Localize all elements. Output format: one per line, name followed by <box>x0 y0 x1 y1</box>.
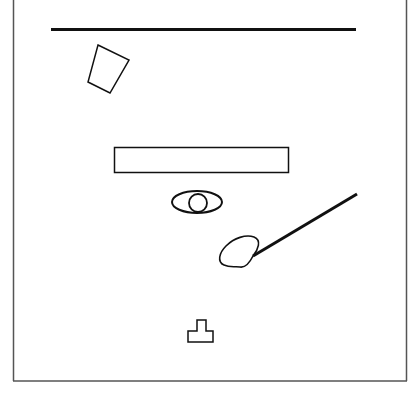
diagram-canvas <box>0 0 413 396</box>
t-shape <box>188 320 213 342</box>
trapezoid <box>88 45 129 93</box>
frame <box>13 0 407 381</box>
diagonal-line <box>253 194 357 256</box>
eye-circle <box>189 194 207 212</box>
rectangle <box>115 148 289 173</box>
blob <box>220 236 259 267</box>
